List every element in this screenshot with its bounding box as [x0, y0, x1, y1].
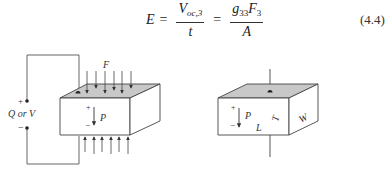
force-label: F — [102, 59, 110, 70]
pol-plus-left: + — [86, 103, 91, 112]
terminal-minus-sign: − — [18, 122, 24, 133]
polarization-label-left: P — [99, 112, 106, 123]
pol-minus-left: − — [85, 120, 90, 130]
terminal-minus-dot — [25, 126, 29, 130]
terminal-label: Q or V — [8, 108, 37, 119]
piezo-block-left — [60, 84, 160, 135]
front-face — [60, 98, 130, 135]
length-label: L — [255, 122, 262, 133]
force-arrows-up — [85, 137, 128, 154]
left-piezo-figure: + − Q or V F + — [8, 55, 160, 164]
polarization-label-right: P — [244, 110, 251, 121]
terminal-plus-sign: + — [18, 96, 23, 106]
pol-minus-right: − — [230, 120, 235, 130]
terminal-plus-dot — [25, 99, 29, 103]
pol-plus-right: + — [231, 103, 236, 112]
piezo-diagrams: + − Q or V F + — [0, 0, 390, 179]
right-piezo-figure: + − P L T W — [218, 69, 318, 157]
